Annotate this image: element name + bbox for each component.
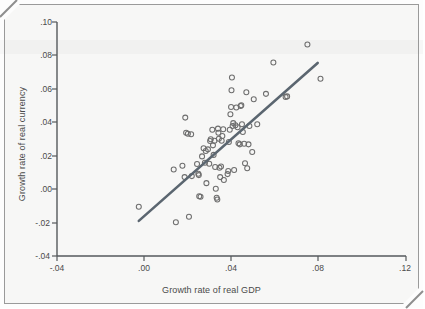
data-point	[200, 154, 205, 159]
data-point	[171, 167, 176, 172]
data-point	[195, 162, 200, 167]
data-point	[305, 42, 310, 47]
data-point	[180, 163, 185, 168]
fit-line	[139, 63, 318, 221]
data-point	[173, 220, 178, 225]
data-point	[271, 60, 276, 65]
data-point	[221, 177, 226, 182]
data-point	[318, 76, 323, 81]
data-point	[229, 104, 234, 109]
data-point	[243, 161, 248, 166]
data-point	[226, 169, 231, 174]
data-point	[204, 181, 209, 186]
data-point	[245, 166, 250, 171]
data-point	[232, 167, 237, 172]
data-point	[251, 97, 256, 102]
data-point	[219, 164, 224, 169]
data-point	[244, 90, 249, 95]
regression-line	[139, 63, 318, 221]
data-point	[210, 127, 215, 132]
data-point	[183, 115, 188, 120]
data-point	[189, 132, 194, 137]
data-point	[221, 127, 226, 132]
data-point	[263, 91, 268, 96]
data-point	[186, 214, 191, 219]
data-point	[136, 204, 141, 209]
data-point	[228, 112, 233, 117]
data-point	[250, 150, 255, 155]
x-axis-ticks	[57, 256, 406, 261]
data-point	[239, 122, 244, 127]
data-point	[229, 75, 234, 80]
data-point	[213, 186, 218, 191]
data-point	[255, 122, 260, 127]
data-point	[229, 88, 234, 93]
y-axis-ticks	[52, 22, 57, 256]
